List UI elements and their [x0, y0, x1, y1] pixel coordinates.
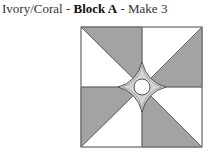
quilt-block-diagram — [0, 0, 213, 155]
center-circle — [134, 79, 150, 95]
